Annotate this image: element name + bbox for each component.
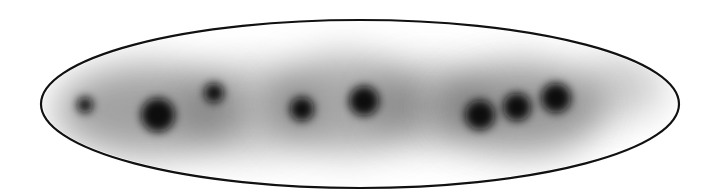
cluster-blob-3 [204, 83, 224, 103]
cluster-blob-6 [465, 100, 495, 130]
cluster-blob-5 [349, 86, 379, 116]
cluster-blob-1 [77, 97, 93, 113]
cluster-blob-7 [503, 93, 531, 121]
cluster-blob-2 [141, 98, 175, 132]
diagram-canvas [0, 0, 715, 195]
cluster-blob-4 [290, 97, 314, 121]
cluster-blob-8 [541, 83, 571, 113]
density-ellipse-diagram [0, 0, 715, 195]
density-halo-6 [575, 58, 665, 118]
